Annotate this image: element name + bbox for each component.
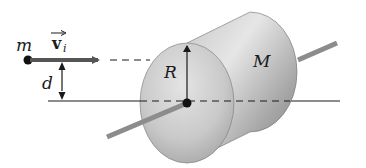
- axle: [298, 43, 337, 60]
- label-particle-mass: m: [16, 35, 32, 55]
- label-velocity-symbol: v: [51, 34, 62, 53]
- axle-rear: [298, 43, 337, 60]
- distance-d-arrow-up-icon: [59, 62, 66, 70]
- label-velocity: v i: [51, 31, 67, 56]
- label-cylinder-mass: M: [252, 51, 271, 71]
- cylinder: [140, 12, 297, 163]
- distance-d-arrow-down-icon: [59, 92, 66, 100]
- label-velocity-subscript: i: [63, 42, 67, 55]
- cylinder-center-dot: [183, 99, 192, 108]
- physics-diagram: m v i d R M: [0, 0, 366, 168]
- diagram-canvas: m v i d R M: [0, 0, 366, 168]
- label-radius: R: [163, 62, 177, 82]
- label-distance: d: [42, 73, 53, 93]
